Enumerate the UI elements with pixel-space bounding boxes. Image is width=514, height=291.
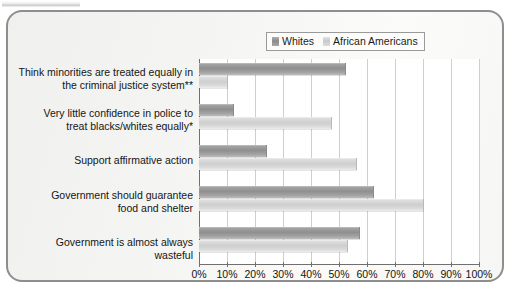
x-tickmark <box>199 262 200 267</box>
bar-whites <box>199 104 234 116</box>
x-tick-label: 10% <box>216 268 237 280</box>
x-tickmark <box>479 262 480 267</box>
x-tickmark <box>367 262 368 267</box>
legend-item-african-americans: African Americans <box>323 35 418 47</box>
category-label: Government is almost always wasteful <box>15 236 193 261</box>
x-tick-label: 0% <box>191 268 206 280</box>
bar-african-americans <box>199 158 357 170</box>
x-tick-label: 70% <box>384 268 405 280</box>
chart-frame: Whites African Americans Think minoritie… <box>6 10 504 282</box>
category-label: Think minorities are treated equally int… <box>15 66 193 91</box>
x-tick-label: 80% <box>412 268 433 280</box>
plot-area <box>199 59 479 264</box>
bar-group <box>199 141 479 182</box>
category-label-line: Think minorities are treated equally in <box>15 66 193 79</box>
x-tick-label: 20% <box>244 268 265 280</box>
x-axis-tick-labels: 0%10%20%30%40%50%60%70%80%90%100% <box>199 268 494 284</box>
x-tick-label: 100% <box>466 268 493 280</box>
category-label-line: Support affirmative action <box>15 154 193 167</box>
category-label: Government should guaranteefood and shel… <box>15 189 193 214</box>
x-tickmark <box>283 262 284 267</box>
bar-whites <box>199 186 374 198</box>
x-tickmark <box>227 262 228 267</box>
legend-swatch-icon <box>323 37 330 46</box>
legend-label-african-americans: African Americans <box>333 35 418 47</box>
x-tick-label: 60% <box>356 268 377 280</box>
x-tickmark <box>395 262 396 267</box>
category-label-line: Government is almost always wasteful <box>15 236 193 261</box>
x-tick-label: 30% <box>272 268 293 280</box>
bar-whites <box>199 63 346 75</box>
chart-legend: Whites African Americans <box>266 32 425 51</box>
category-label-line: Government should guarantee <box>15 189 193 202</box>
x-tick-label: 50% <box>328 268 349 280</box>
legend-item-whites: Whites <box>272 35 314 47</box>
bar-african-americans <box>199 117 332 129</box>
bar-group <box>199 182 479 223</box>
category-label-line: Very little confidence in police to <box>15 107 193 120</box>
bar-african-americans <box>199 199 424 211</box>
category-label-line: the criminal justice system** <box>15 79 193 92</box>
category-label: Very little confidence in police totreat… <box>15 107 193 132</box>
category-label-line: treat blacks/whites equally* <box>15 120 193 133</box>
bar-whites <box>199 227 360 239</box>
category-axis-labels: Think minorities are treated equally int… <box>16 59 196 264</box>
bar-group <box>199 59 479 100</box>
x-tickmark <box>255 262 256 267</box>
bar-group <box>199 223 479 264</box>
legend-swatch-icon <box>272 37 279 46</box>
category-label-line: food and shelter <box>15 202 193 215</box>
x-tickmark <box>451 262 452 267</box>
legend-label-whites: Whites <box>282 35 314 47</box>
bar-african-americans <box>199 240 348 252</box>
gridline <box>479 59 480 264</box>
x-tickmark <box>423 262 424 267</box>
scan-artifact <box>2 1 80 7</box>
x-tickmark <box>339 262 340 267</box>
category-label: Support affirmative action <box>15 154 193 167</box>
bar-group <box>199 100 479 141</box>
bar-whites <box>199 145 267 157</box>
x-tickmark <box>311 262 312 267</box>
x-tick-label: 90% <box>440 268 461 280</box>
x-tick-label: 40% <box>300 268 321 280</box>
bar-african-americans <box>199 76 228 88</box>
